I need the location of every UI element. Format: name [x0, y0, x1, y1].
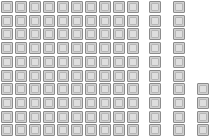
- grid-cell[interactable]: [127, 42, 139, 54]
- grid-cell[interactable]: [15, 15, 27, 27]
- grid-cell[interactable]: [113, 97, 125, 109]
- grid-cell[interactable]: [57, 42, 69, 54]
- grid-cell[interactable]: [57, 15, 69, 27]
- grid-cell[interactable]: [173, 56, 185, 68]
- grid-cell[interactable]: [15, 42, 27, 54]
- grid-cell[interactable]: [43, 124, 55, 136]
- grid-cell[interactable]: [127, 111, 139, 123]
- grid-cell[interactable]: [113, 124, 125, 136]
- grid-cell[interactable]: [85, 42, 97, 54]
- grid-cell[interactable]: [173, 15, 185, 27]
- grid-cell[interactable]: [43, 42, 55, 54]
- grid-cell[interactable]: [99, 1, 111, 13]
- grid-cell[interactable]: [85, 1, 97, 13]
- grid-cell[interactable]: [113, 111, 125, 123]
- grid-cell[interactable]: [15, 97, 27, 109]
- grid-cell[interactable]: [113, 1, 125, 13]
- grid-cell[interactable]: [1, 83, 13, 95]
- grid-cell[interactable]: [71, 111, 83, 123]
- grid-cell[interactable]: [71, 97, 83, 109]
- grid-cell[interactable]: [29, 15, 41, 27]
- grid-cell[interactable]: [1, 1, 13, 13]
- grid-cell[interactable]: [99, 83, 111, 95]
- grid-cell[interactable]: [57, 83, 69, 95]
- grid-cell[interactable]: [197, 124, 209, 136]
- grid-cell[interactable]: [197, 83, 209, 95]
- grid-cell[interactable]: [71, 83, 83, 95]
- grid-cell[interactable]: [99, 15, 111, 27]
- grid-cell[interactable]: [71, 28, 83, 40]
- grid-cell[interactable]: [85, 28, 97, 40]
- grid-cell[interactable]: [43, 83, 55, 95]
- grid-cell[interactable]: [43, 1, 55, 13]
- grid-cell[interactable]: [197, 97, 209, 109]
- grid-cell[interactable]: [99, 97, 111, 109]
- grid-cell[interactable]: [99, 56, 111, 68]
- grid-cell[interactable]: [71, 42, 83, 54]
- grid-cell[interactable]: [57, 28, 69, 40]
- grid-cell[interactable]: [29, 111, 41, 123]
- grid-cell[interactable]: [1, 56, 13, 68]
- grid-cell[interactable]: [71, 70, 83, 82]
- grid-cell[interactable]: [57, 70, 69, 82]
- grid-cell[interactable]: [149, 70, 161, 82]
- grid-cell[interactable]: [43, 56, 55, 68]
- grid-cell[interactable]: [149, 124, 161, 136]
- grid-cell[interactable]: [173, 97, 185, 109]
- grid-cell[interactable]: [99, 42, 111, 54]
- grid-cell[interactable]: [149, 56, 161, 68]
- grid-cell[interactable]: [173, 124, 185, 136]
- grid-cell[interactable]: [57, 56, 69, 68]
- grid-cell[interactable]: [127, 56, 139, 68]
- grid-cell[interactable]: [43, 15, 55, 27]
- grid-cell[interactable]: [71, 15, 83, 27]
- grid-cell[interactable]: [99, 124, 111, 136]
- grid-cell[interactable]: [85, 56, 97, 68]
- grid-cell[interactable]: [29, 124, 41, 136]
- grid-cell[interactable]: [43, 28, 55, 40]
- grid-cell[interactable]: [1, 42, 13, 54]
- grid-cell[interactable]: [85, 83, 97, 95]
- grid-cell[interactable]: [127, 28, 139, 40]
- grid-cell[interactable]: [57, 124, 69, 136]
- grid-cell[interactable]: [113, 70, 125, 82]
- grid-cell[interactable]: [29, 42, 41, 54]
- grid-cell[interactable]: [113, 56, 125, 68]
- grid-cell[interactable]: [149, 28, 161, 40]
- grid-cell[interactable]: [15, 1, 27, 13]
- grid-cell[interactable]: [197, 111, 209, 123]
- grid-cell[interactable]: [127, 97, 139, 109]
- grid-cell[interactable]: [1, 111, 13, 123]
- grid-cell[interactable]: [1, 124, 13, 136]
- grid-cell[interactable]: [43, 97, 55, 109]
- grid-cell[interactable]: [127, 124, 139, 136]
- grid-cell[interactable]: [113, 28, 125, 40]
- grid-cell[interactable]: [1, 28, 13, 40]
- grid-cell[interactable]: [71, 56, 83, 68]
- grid-cell[interactable]: [149, 1, 161, 13]
- grid-cell[interactable]: [71, 124, 83, 136]
- grid-cell[interactable]: [113, 15, 125, 27]
- grid-cell[interactable]: [149, 42, 161, 54]
- grid-cell[interactable]: [15, 56, 27, 68]
- grid-cell[interactable]: [29, 70, 41, 82]
- grid-cell[interactable]: [149, 15, 161, 27]
- grid-cell[interactable]: [15, 111, 27, 123]
- grid-cell[interactable]: [173, 28, 185, 40]
- grid-cell[interactable]: [99, 111, 111, 123]
- grid-cell[interactable]: [127, 15, 139, 27]
- grid-cell[interactable]: [113, 42, 125, 54]
- grid-cell[interactable]: [173, 111, 185, 123]
- grid-cell[interactable]: [173, 1, 185, 13]
- grid-cell[interactable]: [15, 83, 27, 95]
- grid-cell[interactable]: [29, 1, 41, 13]
- grid-cell[interactable]: [15, 70, 27, 82]
- grid-cell[interactable]: [71, 1, 83, 13]
- grid-cell[interactable]: [57, 111, 69, 123]
- grid-cell[interactable]: [85, 124, 97, 136]
- grid-cell[interactable]: [85, 97, 97, 109]
- grid-cell[interactable]: [57, 97, 69, 109]
- grid-cell[interactable]: [149, 97, 161, 109]
- grid-cell[interactable]: [29, 28, 41, 40]
- grid-cell[interactable]: [1, 15, 13, 27]
